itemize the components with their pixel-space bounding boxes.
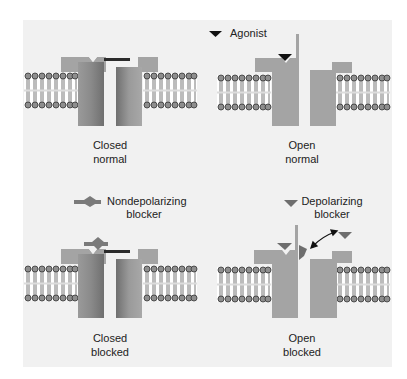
caption-open-normal: Open normal — [272, 138, 332, 166]
depolarizing-blocker-free-icon — [338, 232, 352, 239]
depolarizing-legend-icon — [284, 200, 298, 207]
nondepolarizing-legend-icon — [74, 196, 101, 207]
depolarizing-line1: Depolarizing — [301, 195, 363, 208]
caption-line1: Closed — [80, 331, 140, 345]
nondepolarizing-legend-label: Nondepolarizing blocker — [107, 195, 181, 221]
caption-line1: Closed — [80, 138, 140, 152]
caption-line2: normal — [272, 152, 332, 166]
agonist-legend-label: Agonist — [230, 27, 267, 40]
nondepolarizing-line2: blocker — [107, 208, 181, 221]
depolarizing-line2: blocker — [301, 208, 363, 221]
channel-closed-normal — [24, 57, 197, 126]
nondepolarizing-blocker-bound-icon — [84, 237, 108, 250]
caption-open-blocked: Open blocked — [272, 331, 332, 359]
lipid-bilayer-left — [217, 267, 271, 302]
lipid-bilayer-left — [24, 73, 78, 108]
caption-line2: blocked — [80, 345, 140, 359]
equilibrium-arrow-icon — [311, 230, 337, 248]
ion-channel-diagram — [0, 0, 407, 379]
lipid-bilayer-left — [24, 266, 78, 301]
channel-closed-blocked — [24, 237, 197, 318]
lipid-bilayer-right — [143, 266, 197, 301]
channel-open-normal — [217, 34, 390, 126]
agonist-site-depolarizing-icon — [277, 243, 292, 250]
caption-line2: blocked — [272, 345, 332, 359]
caption-line1: Open — [272, 138, 332, 152]
agonist-legend-icon — [209, 31, 222, 37]
lipid-bilayer-right — [143, 73, 197, 108]
depolarizing-legend-label: Depolarizing blocker — [301, 195, 363, 221]
channel-open-blocked — [217, 225, 390, 318]
caption-closed-normal: Closed normal — [80, 138, 140, 166]
depolarizing-blocker-in-pore-icon — [299, 245, 307, 260]
lipid-bilayer-right — [336, 267, 390, 302]
caption-closed-blocked: Closed blocked — [80, 331, 140, 359]
lipid-bilayer-left — [217, 75, 271, 110]
caption-line2: normal — [80, 152, 140, 166]
nondepolarizing-line1: Nondepolarizing — [107, 195, 181, 208]
caption-line1: Open — [272, 331, 332, 345]
lipid-bilayer-right — [336, 75, 390, 110]
